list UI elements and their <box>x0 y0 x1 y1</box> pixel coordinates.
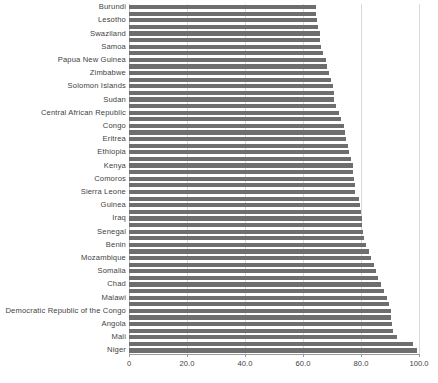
category-label: Malawi <box>0 294 126 302</box>
bar[interactable] <box>129 97 334 101</box>
bar-row <box>129 162 419 169</box>
bar[interactable] <box>129 25 318 29</box>
bar[interactable] <box>129 117 341 121</box>
bar[interactable] <box>129 12 316 16</box>
bar-row <box>129 288 419 295</box>
bar-row <box>129 4 419 11</box>
bar-row <box>129 37 419 44</box>
bar[interactable] <box>129 58 326 62</box>
bar-row <box>129 262 419 269</box>
bar-row <box>129 235 419 242</box>
bar[interactable] <box>129 31 320 35</box>
category-label: Benin <box>0 241 126 249</box>
x-axis-line <box>129 354 420 355</box>
bar[interactable] <box>129 163 353 167</box>
category-label: Zimbabwe <box>0 69 126 77</box>
bar[interactable] <box>129 263 374 267</box>
bar-row <box>129 176 419 183</box>
bar[interactable] <box>129 78 331 82</box>
bar[interactable] <box>129 289 384 293</box>
bar[interactable] <box>129 170 353 174</box>
bar-row <box>129 30 419 37</box>
bar[interactable] <box>129 269 376 273</box>
x-tick-label: 0 <box>127 359 131 368</box>
bar-row <box>129 90 419 97</box>
bar[interactable] <box>129 91 334 95</box>
bar[interactable] <box>129 64 327 68</box>
bar[interactable] <box>129 276 378 280</box>
bar[interactable] <box>129 309 391 313</box>
x-tick-mark <box>419 354 420 357</box>
bar-row <box>129 347 419 354</box>
bar[interactable] <box>129 137 346 141</box>
bar-row <box>129 123 419 130</box>
bar[interactable] <box>129 315 391 319</box>
bar[interactable] <box>129 302 389 306</box>
bar[interactable] <box>129 104 336 108</box>
category-label: Burundi <box>0 3 126 11</box>
bar[interactable] <box>129 256 371 260</box>
bar[interactable] <box>129 282 381 286</box>
category-label: Sudan <box>0 96 126 104</box>
bar[interactable] <box>129 236 364 240</box>
bar-row <box>129 149 419 156</box>
bar-row <box>129 143 419 150</box>
bar[interactable] <box>129 249 369 253</box>
category-label: Swaziland <box>0 30 126 38</box>
bar[interactable] <box>129 150 349 154</box>
bar[interactable] <box>129 348 417 352</box>
bar[interactable] <box>129 230 363 234</box>
category-label: Comoros <box>0 175 126 183</box>
bar-row <box>129 17 419 24</box>
bar-row <box>129 334 419 341</box>
bar-row <box>129 70 419 77</box>
bar[interactable] <box>129 111 339 115</box>
x-tick-label: 60.0 <box>296 359 311 368</box>
category-label: Iraq <box>0 214 126 222</box>
bar[interactable] <box>129 5 316 9</box>
bar-row <box>129 116 419 123</box>
bar-chart: BurundiLesothoSwazilandSamoaPapua New Gu… <box>0 0 438 383</box>
bar[interactable] <box>129 18 317 22</box>
bar-row <box>129 63 419 70</box>
bar[interactable] <box>129 322 392 326</box>
bar-row <box>129 129 419 136</box>
bar[interactable] <box>129 177 354 181</box>
bar[interactable] <box>129 223 362 227</box>
bar-row <box>129 50 419 57</box>
bar[interactable] <box>129 130 345 134</box>
bar[interactable] <box>129 183 355 187</box>
category-label: Somalia <box>0 267 126 275</box>
bar[interactable] <box>129 51 323 55</box>
bar[interactable] <box>129 71 329 75</box>
category-label: Samoa <box>0 43 126 51</box>
bar[interactable] <box>129 190 355 194</box>
bar[interactable] <box>129 329 393 333</box>
bar[interactable] <box>129 210 361 214</box>
bar[interactable] <box>129 45 321 49</box>
bar-row <box>129 169 419 176</box>
bar-row <box>129 255 419 262</box>
bar[interactable] <box>129 144 348 148</box>
bar-row <box>129 196 419 203</box>
category-label: Central African Republic <box>0 109 126 117</box>
category-label: Congo <box>0 122 126 130</box>
bar-row <box>129 301 419 308</box>
bar[interactable] <box>129 335 397 339</box>
bar-row <box>129 209 419 216</box>
bar-row <box>129 328 419 335</box>
bar[interactable] <box>129 124 344 128</box>
bar-row <box>129 11 419 18</box>
bar[interactable] <box>129 216 362 220</box>
bar[interactable] <box>129 84 333 88</box>
bar[interactable] <box>129 38 320 42</box>
bar[interactable] <box>129 243 366 247</box>
bar-row <box>129 295 419 302</box>
bar[interactable] <box>129 197 359 201</box>
x-tick-mark <box>361 354 362 357</box>
bar-row <box>129 77 419 84</box>
bar[interactable] <box>129 203 360 207</box>
bar[interactable] <box>129 157 351 161</box>
bar[interactable] <box>129 296 387 300</box>
bar[interactable] <box>129 342 413 346</box>
